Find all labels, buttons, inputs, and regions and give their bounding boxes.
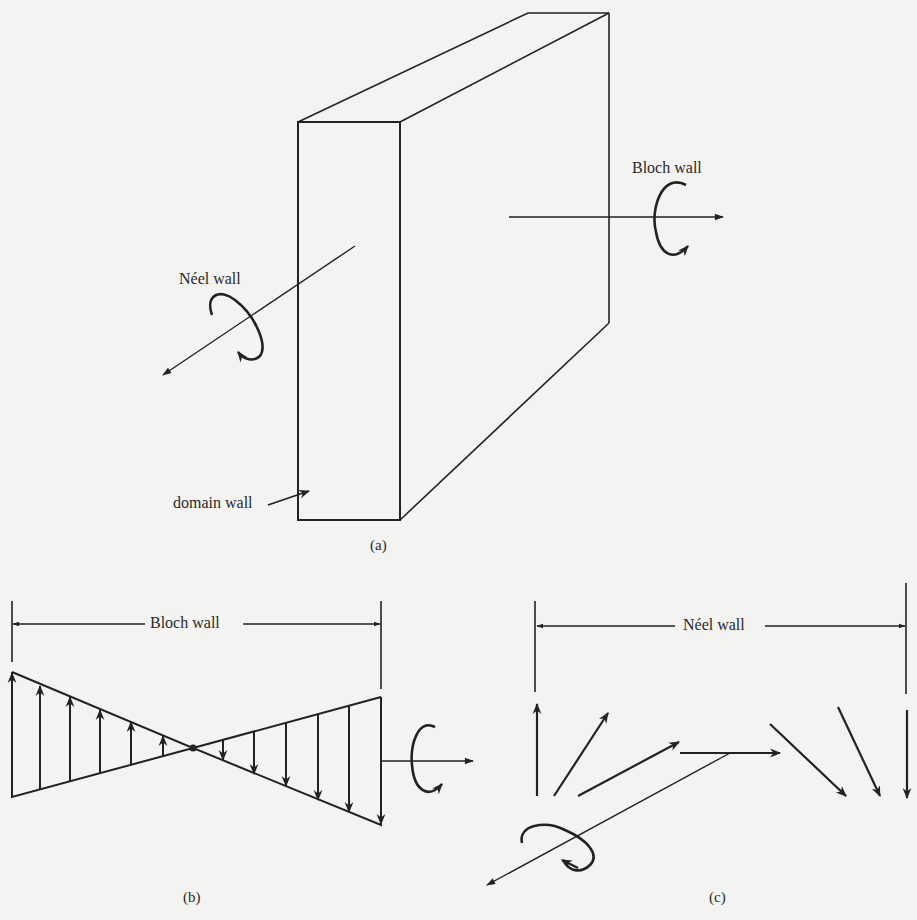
rotation-icon [654,182,688,254]
domain-wall-pointer-arrow [268,491,309,505]
slab-top-inner-edge [400,13,609,122]
slab-top-edge [298,13,609,122]
bloch-wall-label: Bloch wall [632,160,702,176]
panel-b [12,601,473,825]
center-dot [189,744,196,751]
panel-a-slab [298,13,609,520]
slab-front-face [298,122,400,520]
rotation-icon [522,825,594,870]
slab-bottom-edge [400,323,609,520]
domain-wall-diagram [0,0,917,920]
bloch-axis-a [509,182,723,254]
down-spin-arrows [223,698,381,824]
neel-axis-c [487,753,730,885]
rotation-icon [412,725,442,792]
domain-wall-label: domain wall [173,495,253,511]
panel-c-dimension-label: Néel wall [680,617,748,633]
neel-wall-label: Néel wall [179,271,241,287]
caption-b: (b) [183,890,201,905]
neel-spin-arrows [537,704,907,798]
neel-axis-a [163,246,355,375]
panel-b-dimension-label: Bloch wall [147,615,223,631]
rotation-icon [210,294,262,359]
caption-a: (a) [370,538,387,553]
caption-c: (c) [709,890,726,905]
